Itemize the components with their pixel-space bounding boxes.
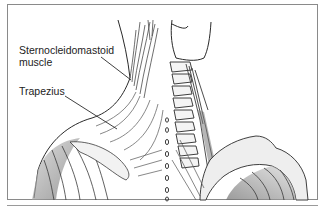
spinous-processes xyxy=(165,118,168,201)
scapular-spine-left xyxy=(70,142,129,180)
head-outline xyxy=(171,20,211,60)
scm-fibers xyxy=(130,20,158,98)
label-scm-line2: muscle xyxy=(19,56,114,68)
leader-line-trapezius xyxy=(65,96,117,129)
label-scm-line1: Sternocleidomastoid xyxy=(19,44,114,56)
label-sternocleidomastoid: Sternocleidomastoid muscle xyxy=(19,44,114,68)
label-trapezius: Trapezius xyxy=(19,85,65,97)
bottom-rule xyxy=(7,205,318,206)
anatomy-illustration xyxy=(0,0,327,212)
deltoid-left xyxy=(32,138,80,200)
label-trapezius-line1: Trapezius xyxy=(19,85,65,97)
